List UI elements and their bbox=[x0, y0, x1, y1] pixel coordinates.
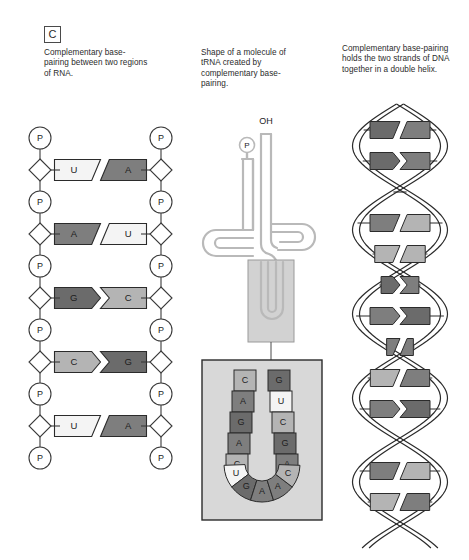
base-pair-rung bbox=[368, 370, 433, 387]
phosphate-label: P bbox=[37, 133, 43, 143]
caption-trna: Shape of a molecule of tRNA created by c… bbox=[201, 48, 297, 90]
base-left-label: U bbox=[70, 420, 77, 431]
base-right-label: A bbox=[125, 164, 132, 175]
base-right bbox=[400, 494, 430, 511]
anticodon-stem-base-right-label: C bbox=[280, 417, 287, 427]
base-right bbox=[400, 153, 430, 170]
base-right bbox=[400, 246, 425, 263]
trna-figure: OHPCGAUGCAGCAUGAAC bbox=[198, 112, 326, 467]
sugar-diamond bbox=[29, 351, 51, 373]
phosphate-label: P bbox=[158, 389, 164, 399]
anticodon-region-box bbox=[248, 260, 294, 342]
figure-page: C Complementary base-pairing between two… bbox=[0, 0, 469, 560]
phosphate-label: P bbox=[37, 325, 43, 335]
anticodon-magnified-view: CGAUGCAGCAUGAAC bbox=[202, 360, 322, 520]
phosphate-label: P bbox=[158, 261, 164, 271]
phosphate-label: P bbox=[158, 197, 164, 207]
d-arm-inner bbox=[215, 238, 253, 248]
base-left bbox=[55, 352, 101, 373]
anticodon-loop-base-label: A bbox=[275, 481, 281, 491]
base-left bbox=[370, 215, 400, 232]
sugar-diamond bbox=[29, 287, 51, 309]
panel-letter-badge: C bbox=[44, 26, 61, 43]
sugar-diamond bbox=[150, 351, 172, 373]
base-left bbox=[381, 277, 400, 294]
sugar-diamond bbox=[150, 223, 172, 245]
dna-helix-group bbox=[353, 104, 448, 548]
base-left bbox=[370, 463, 400, 480]
rna-ladder-figure: PPPPPPPPPPPPUAAUGCCGUA bbox=[18, 118, 183, 468]
backbone-strand-a bbox=[360, 104, 448, 548]
base-right bbox=[101, 224, 147, 245]
base-left-label: C bbox=[70, 356, 77, 367]
anticodon-loop-base-label: G bbox=[243, 481, 250, 491]
base-right bbox=[400, 339, 413, 356]
base-pair-rung bbox=[379, 277, 420, 294]
base-pair-rung: UA bbox=[55, 160, 147, 181]
base-pair-rung: GC bbox=[55, 288, 147, 309]
base-left bbox=[55, 416, 101, 437]
base-right-label: U bbox=[125, 228, 132, 239]
base-pair-rung bbox=[385, 339, 414, 356]
caption-dna: Complementary base-pairing holds the two… bbox=[342, 44, 454, 75]
base-left bbox=[55, 160, 101, 181]
sugar-diamond bbox=[29, 415, 51, 437]
anticodon-stem-base-left-label: G bbox=[237, 417, 244, 427]
anticodon-loop-base-label: U bbox=[233, 468, 240, 478]
anticodon-stem-base-right-label: G bbox=[281, 438, 288, 448]
base-pair-rung bbox=[356, 308, 444, 325]
base-right-label: G bbox=[124, 356, 131, 367]
trna-group: OHPCGAUGCAGCAUGAAC bbox=[202, 116, 322, 520]
base-right bbox=[400, 463, 430, 480]
base-pair-rung: UA bbox=[55, 416, 147, 437]
base-left bbox=[370, 494, 400, 511]
base-right bbox=[400, 370, 430, 387]
anticodon-stem-base-left-label: A bbox=[240, 396, 246, 406]
phosphate-label: P bbox=[37, 389, 43, 399]
base-pair-rung bbox=[360, 401, 441, 418]
rna-ladder-group: PPPPPPPPPPPPUAAUGCCGUA bbox=[29, 127, 172, 469]
backbone-strand-b bbox=[353, 104, 441, 548]
base-right bbox=[101, 416, 147, 437]
phosphate-label: P bbox=[158, 133, 164, 143]
anticodon-stem-base-left-label: C bbox=[242, 375, 249, 385]
backbone-strand-a bbox=[353, 104, 441, 548]
base-right-label: A bbox=[125, 420, 132, 431]
base-left bbox=[370, 122, 400, 139]
anticodon-loop-base-label: A bbox=[259, 486, 265, 496]
base-pair-rung: AU bbox=[55, 224, 147, 245]
base-right-label: C bbox=[125, 292, 132, 303]
base-left bbox=[370, 308, 400, 325]
anticodon-stem-base-right-label: U bbox=[278, 396, 285, 406]
base-right bbox=[400, 215, 430, 232]
base-pair-rung bbox=[364, 122, 437, 139]
base-right bbox=[400, 308, 430, 325]
anticodon-loop-base-label: C bbox=[285, 468, 292, 478]
backbone-strand-b bbox=[360, 104, 448, 548]
caption-rna: Complementary base-pairing between two r… bbox=[44, 48, 149, 79]
base-left bbox=[375, 246, 400, 263]
sugar-diamond bbox=[150, 159, 172, 181]
sugar-diamond bbox=[29, 159, 51, 181]
sugar-diamond bbox=[150, 287, 172, 309]
base-left-label: A bbox=[71, 228, 78, 239]
anticodon-stem-base-right-label: G bbox=[275, 375, 282, 385]
t-arm-inner bbox=[271, 232, 303, 242]
sugar-diamond bbox=[150, 415, 172, 437]
base-right bbox=[400, 401, 430, 418]
base-right bbox=[400, 277, 419, 294]
base-left bbox=[370, 370, 400, 387]
phosphate-label: P bbox=[158, 325, 164, 335]
sugar-diamond bbox=[29, 223, 51, 245]
base-right bbox=[101, 160, 147, 181]
base-right bbox=[101, 288, 147, 309]
base-pair-rung bbox=[360, 463, 441, 480]
base-left bbox=[55, 224, 101, 245]
base-left-label: G bbox=[70, 292, 77, 303]
anticodon-stem-base-left-label: A bbox=[236, 438, 242, 448]
base-pair-rung bbox=[373, 246, 428, 263]
base-left bbox=[370, 401, 400, 418]
t-arm-outer bbox=[271, 224, 315, 250]
base-pair-rung bbox=[368, 494, 433, 511]
trna-phosphate-label: P bbox=[244, 141, 249, 150]
